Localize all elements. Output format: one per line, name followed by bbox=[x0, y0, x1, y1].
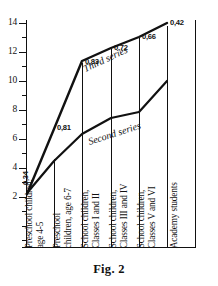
category-label-2-line2: children, age 6-7 bbox=[64, 188, 73, 248]
category-label-5-line1: School children, bbox=[137, 189, 146, 248]
category-label-1-line1: Preschool children, bbox=[25, 179, 34, 248]
category-label-2-line1: Preschool bbox=[53, 213, 62, 248]
chart-plot-area: 14 12 10 8 6 4 2 0,34 0,81 0,83 0,72 0,6… bbox=[0, 0, 218, 258]
figure-2: 14 12 10 8 6 4 2 0,34 0,81 0,83 0,72 0,6… bbox=[0, 0, 218, 286]
category-label-4-line1: School children, bbox=[109, 189, 118, 248]
data-label-0-42: 0,42 bbox=[170, 18, 184, 27]
category-label-3-line1: School children, bbox=[81, 189, 90, 248]
figure-caption: Fig. 2 bbox=[0, 262, 218, 277]
data-label-0-81: 0,81 bbox=[57, 123, 71, 132]
category-label-3-line2: Classes I and II bbox=[92, 193, 101, 248]
data-label-0-66: 0,66 bbox=[142, 32, 156, 41]
category-label-5-line2: Classes V and VI bbox=[148, 186, 157, 248]
category-label-4-line2: Classes III and IV bbox=[120, 183, 129, 248]
category-label-6-line1: Academy students bbox=[170, 182, 179, 248]
category-label-1-line2: age 4-5 bbox=[36, 221, 45, 248]
